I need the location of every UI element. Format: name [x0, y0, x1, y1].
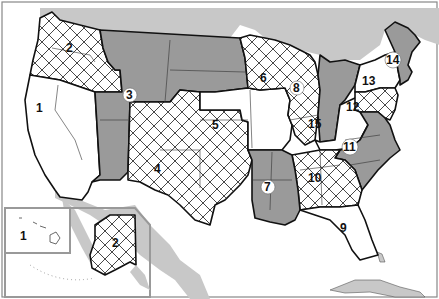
label-alaska: 2 [112, 236, 119, 250]
map-canvas: 1 2 3 4 5 6 7 8 9 10 11 12 13 14 15 1 2 [0, 0, 439, 299]
label-region-6: 6 [260, 71, 267, 85]
label-region-15: 15 [308, 117, 322, 131]
label-region-4: 4 [154, 162, 161, 176]
label-region-1: 1 [36, 101, 43, 115]
hawaii-inset [5, 208, 70, 253]
label-region-11: 11 [343, 140, 356, 154]
label-region-12: 12 [346, 100, 360, 114]
label-region-9: 9 [340, 221, 347, 235]
label-hawaii: 1 [20, 229, 27, 243]
label-region-14: 14 [386, 53, 400, 67]
label-region-7: 7 [264, 180, 271, 194]
label-region-3: 3 [126, 88, 133, 102]
label-region-5: 5 [212, 118, 219, 132]
label-region-2: 2 [66, 41, 73, 55]
label-region-8: 8 [293, 81, 300, 95]
label-region-10: 10 [308, 171, 322, 185]
label-region-13: 13 [362, 74, 376, 88]
us-regions-map: 1 2 3 4 5 6 7 8 9 10 11 12 13 14 15 1 2 [0, 0, 439, 299]
